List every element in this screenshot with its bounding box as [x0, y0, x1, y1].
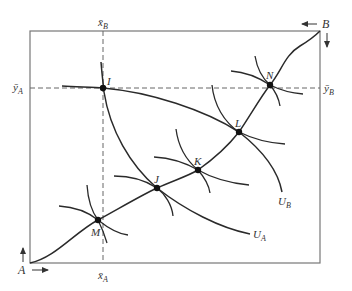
point-k	[195, 167, 201, 173]
label-x-bar-b: x̄B	[97, 16, 108, 31]
label-u-b: UB	[278, 195, 291, 210]
point-m	[95, 217, 101, 223]
label-i: I	[106, 75, 112, 87]
curve-l-a	[212, 85, 285, 144]
curve-j-a	[114, 176, 173, 216]
label-k: K	[193, 155, 202, 167]
label-y-bar-b: ȳB	[323, 82, 334, 97]
point-l	[236, 129, 242, 135]
curve-k-b	[176, 129, 210, 193]
label-u-a: UA	[253, 228, 266, 243]
curve-n-b	[255, 56, 280, 106]
edgeworth-box-diagram: I J K L M N UB UA x̄B x̄A ȳA ȳB A B	[0, 0, 352, 291]
point-j	[154, 185, 160, 191]
label-y-bar-a: ȳA	[12, 81, 23, 96]
label-n: N	[265, 69, 274, 81]
point-n	[267, 82, 273, 88]
label-x-bar-a: x̄A	[97, 269, 108, 284]
origin-a-label: A	[17, 263, 26, 277]
contract-curve	[30, 31, 320, 263]
origin-b-label: B	[322, 17, 330, 31]
indifference-curve-u-b	[62, 86, 282, 192]
label-j: J	[154, 173, 160, 185]
point-i	[100, 85, 106, 91]
box-frame	[30, 31, 320, 263]
label-l: L	[234, 117, 241, 129]
curve-k-a	[154, 157, 249, 185]
label-m: M	[90, 226, 101, 238]
